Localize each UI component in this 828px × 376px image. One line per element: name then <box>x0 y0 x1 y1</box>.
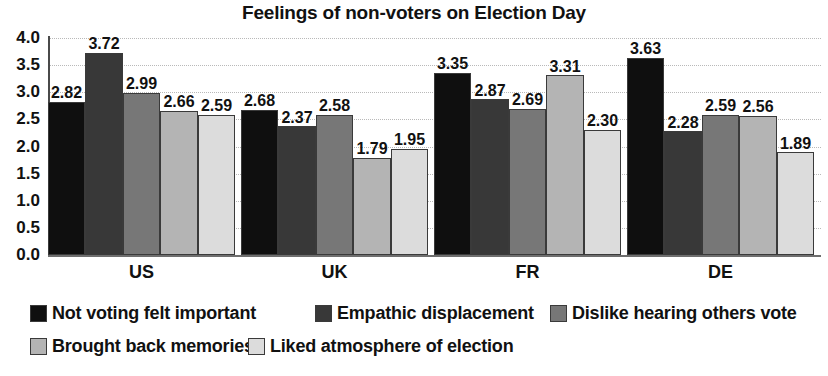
legend-item[interactable]: Liked atmosphere of election <box>248 336 513 357</box>
bar[interactable]: 2.59 <box>702 115 740 256</box>
x-axis-line <box>48 255 821 257</box>
bar-value-label: 2.59 <box>201 98 232 115</box>
bar-value-label: 2.56 <box>742 99 773 116</box>
x-axis-category-label: US <box>129 262 154 283</box>
legend-label: Dislike hearing others vote <box>572 303 797 324</box>
bar-value-label: 3.35 <box>437 56 468 73</box>
y-axis-tick-label: 1.0 <box>16 191 40 211</box>
bar[interactable]: 2.28 <box>664 131 702 255</box>
bar[interactable]: 3.35 <box>434 73 472 255</box>
bar[interactable]: 2.58 <box>316 115 354 255</box>
y-axis-tick-label: 0.5 <box>16 218 40 238</box>
y-axis-tick-labels: 4.03.53.02.52.01.51.00.50.0 <box>0 38 44 255</box>
legend-item[interactable]: Empathic displacement <box>315 303 534 324</box>
bar-value-label: 2.69 <box>512 92 543 109</box>
bar-group-us: 2.823.722.992.662.59 <box>48 38 236 255</box>
bar[interactable]: 3.31 <box>546 75 584 255</box>
bar-value-label: 2.99 <box>126 76 157 93</box>
bar[interactable]: 2.56 <box>739 116 777 255</box>
legend-row: Brought back memoriesLiked atmosphere of… <box>30 336 820 366</box>
bar-value-label: 2.58 <box>319 98 350 115</box>
bar[interactable]: 2.87 <box>471 99 509 255</box>
bar-value-label: 3.31 <box>549 59 580 76</box>
bar-value-label: 3.63 <box>630 41 661 58</box>
y-axis-tick-label: 0.0 <box>16 245 40 265</box>
bar[interactable]: 2.59 <box>198 115 236 256</box>
x-axis-category-labels: USUKFRDE <box>49 262 821 292</box>
y-axis-tick-label: 2.0 <box>16 137 40 157</box>
bar[interactable]: 2.69 <box>509 109 547 255</box>
legend-label: Empathic displacement <box>337 303 534 324</box>
legend-item[interactable]: Not voting felt important <box>30 303 256 324</box>
legend-label: Liked atmosphere of election <box>270 336 513 357</box>
y-axis-tick-label: 1.5 <box>16 164 40 184</box>
bar-value-label: 2.30 <box>587 113 618 130</box>
y-axis-tick-label: 4.0 <box>16 28 40 48</box>
bar[interactable]: 2.37 <box>278 126 316 255</box>
bar[interactable]: 1.79 <box>353 158 391 255</box>
x-axis-category-label: FR <box>516 262 540 283</box>
bar-group-uk: 2.682.372.581.791.95 <box>241 38 429 255</box>
bar-chart: Feelings of non-voters on Election Day 4… <box>0 0 828 376</box>
bar-value-label: 1.79 <box>356 141 387 158</box>
bar-group-fr: 3.352.872.693.312.30 <box>434 38 622 255</box>
y-axis-tick-label: 3.0 <box>16 82 40 102</box>
legend-label: Not voting felt important <box>52 303 256 324</box>
bar[interactable]: 2.66 <box>160 111 198 255</box>
bar-value-label: 2.82 <box>51 85 82 102</box>
legend-swatch-icon <box>550 305 567 322</box>
legend-swatch-icon <box>248 338 265 355</box>
bar-value-label: 2.59 <box>705 98 736 115</box>
legend-swatch-icon <box>315 305 332 322</box>
x-axis-category-label: DE <box>708 262 733 283</box>
legend-label: Brought back memories <box>52 336 254 357</box>
legend-row: Not voting felt importantEmpathic displa… <box>30 303 820 333</box>
legend-swatch-icon <box>30 338 47 355</box>
bar-value-label: 2.66 <box>163 94 194 111</box>
bar-value-label: 2.68 <box>244 93 275 110</box>
bar-value-label: 2.37 <box>281 110 312 127</box>
bar-value-label: 2.28 <box>667 115 698 132</box>
bar-value-label: 2.87 <box>474 83 505 100</box>
y-axis-tick-label: 3.5 <box>16 55 40 75</box>
bar[interactable]: 2.30 <box>584 130 622 255</box>
bar[interactable]: 2.68 <box>241 110 279 255</box>
bar-value-label: 3.72 <box>88 36 119 53</box>
bar[interactable]: 3.63 <box>627 58 665 255</box>
chart-title: Feelings of non-voters on Election Day <box>0 2 828 24</box>
bar-value-label: 1.95 <box>394 132 425 149</box>
bar[interactable]: 3.72 <box>85 53 123 255</box>
bar[interactable]: 1.89 <box>777 152 815 255</box>
bar-value-label: 1.89 <box>780 136 811 153</box>
x-axis-category-label: UK <box>322 262 348 283</box>
chart-legend: Not voting felt importantEmpathic displa… <box>30 303 820 373</box>
bar-group-de: 3.632.282.592.561.89 <box>627 38 815 255</box>
bar[interactable]: 2.99 <box>123 93 161 255</box>
y-axis-tick-label: 2.5 <box>16 109 40 129</box>
bar[interactable]: 2.82 <box>48 102 86 255</box>
legend-swatch-icon <box>30 305 47 322</box>
legend-item[interactable]: Dislike hearing others vote <box>550 303 797 324</box>
legend-item[interactable]: Brought back memories <box>30 336 254 357</box>
bars-layer: 2.823.722.992.662.592.682.372.581.791.95… <box>49 38 821 255</box>
bar[interactable]: 1.95 <box>391 149 429 255</box>
